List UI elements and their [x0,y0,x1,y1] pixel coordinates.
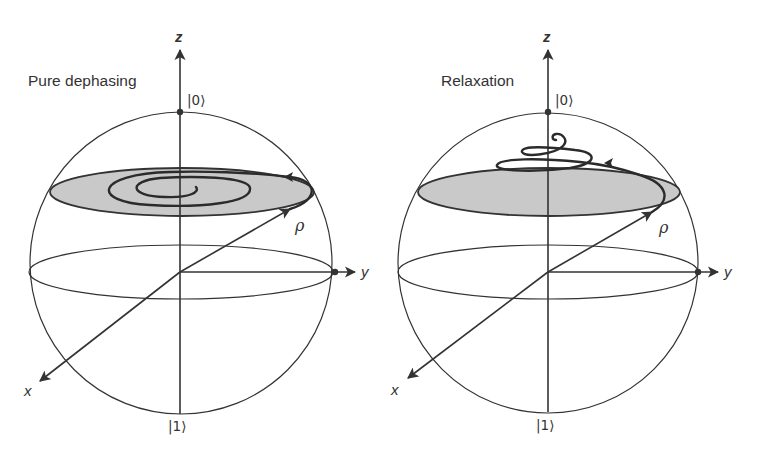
z-axis-label: z [174,28,183,45]
y-axis-label: y [360,263,370,280]
x-axis-label: x [390,381,399,398]
sphere-outline [30,112,332,414]
rho-label: ρ [658,218,669,237]
rho-vector [548,212,652,272]
ket-1-label: |1⟩ [536,417,554,434]
panel-title: Relaxation [441,72,514,89]
z-axis-label: z [542,28,551,45]
north-pole-dot [177,109,183,115]
y-intercept-dot [332,269,338,275]
panel-pure-dephasing: Pure dephasing z y x |0⟩ |1⟩ ρ [23,28,370,435]
x-axis-label: x [23,382,32,399]
y-intercept-dot [695,269,701,275]
panel-title: Pure dephasing [28,72,137,89]
bloch-sphere-figure: Pure dephasing z y x |0⟩ |1⟩ ρ Relaxatio… [0,0,758,464]
ket-0-label: |0⟩ [555,92,573,109]
rho-label: ρ [294,216,305,235]
y-axis-label: y [723,263,733,280]
ket-1-label: |1⟩ [168,418,186,435]
ket-0-label: |0⟩ [187,92,205,109]
rho-vector [180,209,290,272]
panel-relaxation: Relaxation z y x |0⟩ |1⟩ ρ [390,28,733,434]
north-pole-dot [545,109,551,115]
